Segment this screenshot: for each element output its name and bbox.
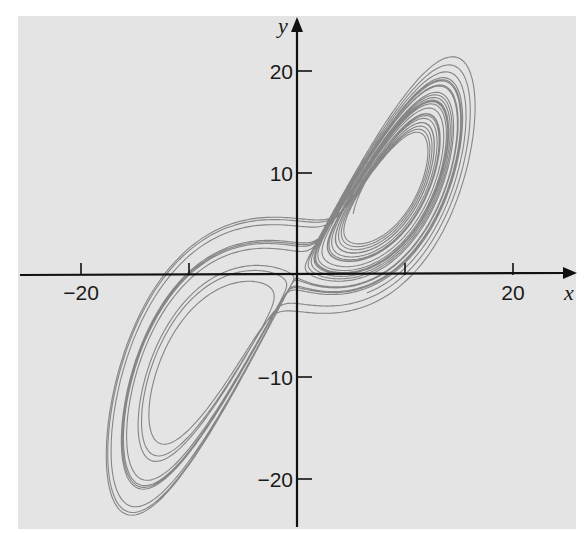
y-axis-label: y (276, 13, 288, 38)
x-tick-label: 20 (501, 281, 524, 304)
y-tick-label: −20 (257, 468, 293, 491)
y-tick-label: 20 (270, 60, 293, 83)
lorenz-attractor-figure: −2020 2010−10−20 x y (0, 0, 584, 534)
x-tick-label: −20 (63, 281, 99, 304)
y-tick-label: 10 (270, 162, 293, 185)
x-axis-label: x (563, 280, 574, 305)
y-tick-label: −10 (257, 366, 293, 389)
